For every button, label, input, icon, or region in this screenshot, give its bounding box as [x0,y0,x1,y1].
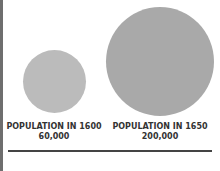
population-1650-label: POPULATION IN 1650 200,000 [110,122,210,142]
left-border-bar [0,0,3,171]
population-1600-label: POPULATION IN 1600 60,000 [5,122,103,142]
population-1650-value: 200,000 [110,132,210,142]
population-1650-circle [106,7,214,116]
population-1600-value: 60,000 [5,132,103,142]
population-1600-circle [23,50,86,113]
population-1650-title: POPULATION IN 1650 [110,122,210,132]
baseline-rule [8,150,212,152]
population-1600-title: POPULATION IN 1600 [5,122,103,132]
